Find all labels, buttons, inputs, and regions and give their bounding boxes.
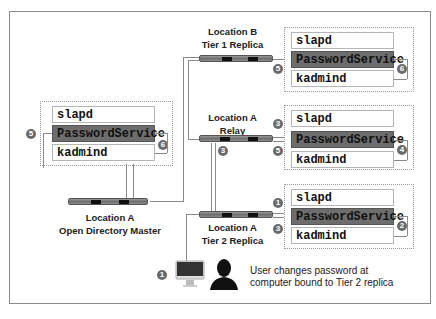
connector [394, 79, 407, 80]
connector [186, 214, 199, 215]
connector [186, 214, 187, 262]
step-badge-relay-loop: 4 [397, 145, 407, 155]
connector [167, 133, 168, 153]
master-passwordservice: PasswordService [52, 125, 155, 142]
step-badge-relay-in: 3 [273, 119, 283, 129]
step-badge-relay-up: 3 [218, 146, 228, 156]
tier1-passwordservice: PasswordService [291, 51, 394, 68]
tier2-slapd: slapd [291, 189, 394, 206]
master-slapd: slapd [52, 106, 155, 123]
connector [188, 60, 199, 61]
step-badge-tier2-loop: 2 [397, 221, 407, 231]
connector [394, 140, 407, 141]
step-badge-tier2-in: 1 [273, 198, 283, 208]
connector [394, 236, 407, 237]
connector [394, 59, 407, 60]
step-badge-master-in: 5 [26, 129, 36, 139]
connector [188, 60, 189, 139]
connector [211, 143, 212, 211]
connector [43, 133, 52, 134]
connector [155, 153, 167, 154]
connector [215, 143, 216, 211]
connector [183, 57, 199, 58]
connector [155, 133, 167, 134]
step-badge-tier2-out: 3 [273, 224, 283, 234]
master-label: Location A Open Directory Master [50, 211, 170, 237]
connector [133, 164, 134, 198]
connector [407, 140, 408, 160]
relay-server-icon [199, 135, 273, 142]
relay-label: Location A Relay [195, 111, 270, 137]
connector [394, 160, 407, 161]
connector [43, 133, 44, 168]
tier2-server-icon [199, 211, 273, 218]
connector [126, 164, 127, 198]
connector [150, 201, 183, 202]
master-server-icon [68, 198, 148, 205]
tier1-server-icon [199, 55, 273, 62]
step-badge-user: 1 [157, 270, 167, 280]
tier2-passwordservice: PasswordService [291, 208, 394, 225]
step-badge-relay-out: 5 [273, 146, 283, 156]
connector [407, 59, 408, 79]
connector [394, 216, 407, 217]
tier1-kadmind: kadmind [291, 70, 394, 87]
step-badge-tier1-loop: 6 [397, 64, 407, 74]
tier1-slapd: slapd [291, 32, 394, 49]
tier2-kadmind: kadmind [291, 227, 394, 244]
relay-passwordservice: PasswordService [291, 131, 394, 148]
relay-slapd: slapd [291, 110, 394, 127]
connector [407, 216, 408, 236]
master-kadmind: kadmind [52, 144, 155, 161]
relay-kadmind: kadmind [291, 151, 394, 168]
tier1-label: Location B Tier 1 Replica [190, 25, 275, 51]
connector [183, 57, 184, 202]
step-badge-tier1-in: 5 [273, 64, 283, 74]
computer-icon [175, 260, 205, 290]
user-silhouette-icon [208, 258, 240, 290]
user-caption: User changes password at computer bound … [250, 265, 393, 289]
tier2-label: Location A Tier 2 Replica [190, 221, 275, 247]
